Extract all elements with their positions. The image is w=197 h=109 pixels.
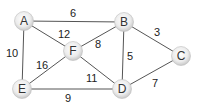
edge-weight-label: 7 — [152, 77, 158, 89]
edge-weight-label: 3 — [154, 26, 160, 38]
node-c: C — [172, 47, 191, 66]
edge-weight-label: 9 — [65, 92, 71, 104]
node-label: F — [69, 44, 76, 58]
edge-weight-label: 10 — [6, 47, 18, 59]
edge-weight-label: 16 — [36, 59, 48, 71]
graph-diagram: 61210853161197 ABCDEF — [0, 0, 197, 109]
node-label: C — [177, 49, 186, 63]
node-b: B — [115, 13, 134, 32]
node-label: B — [120, 15, 128, 29]
edge-weight-label: 11 — [86, 72, 97, 84]
edge-a-e — [22, 21, 24, 89]
nodes-group: ABCDEF — [13, 12, 191, 99]
node-e: E — [13, 80, 32, 99]
node-label: D — [118, 82, 127, 96]
edge-weight-label: 6 — [70, 7, 76, 19]
edge-a-b — [24, 21, 124, 22]
node-label: E — [18, 82, 26, 96]
node-label: A — [20, 14, 28, 28]
edge-weight-label: 8 — [95, 38, 101, 50]
node-a: A — [15, 12, 34, 31]
node-f: F — [64, 42, 83, 61]
edge-weight-label: 12 — [58, 28, 70, 40]
node-d: D — [113, 80, 132, 99]
edge-weight-label: 5 — [127, 50, 133, 62]
edge-b-d — [122, 22, 124, 89]
